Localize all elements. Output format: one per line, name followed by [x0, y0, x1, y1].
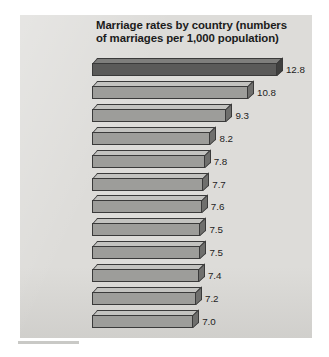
bar-front-face [92, 246, 200, 259]
bar [92, 127, 210, 144]
bar-side-face [277, 58, 283, 76]
value-label: 7.5 [209, 224, 222, 235]
value-label: 7.5 [209, 247, 222, 258]
bar-front-face [92, 109, 226, 122]
bar [92, 150, 205, 167]
bar-side-face [202, 195, 208, 213]
bar [92, 218, 200, 235]
bar-front-face [92, 86, 248, 99]
marriage-rates-bar-chart: Marriage rates by country (numbers of ma… [0, 0, 329, 357]
bar-side-face [199, 264, 205, 282]
bar [92, 264, 199, 281]
value-label: 7.2 [205, 293, 218, 304]
value-label: 7.6 [211, 201, 224, 212]
bar-front-face [92, 155, 205, 168]
bar [92, 104, 226, 121]
bar-front-face [92, 63, 277, 76]
value-label: 7.7 [212, 179, 225, 190]
bar-side-face [193, 309, 199, 327]
bar-side-face [200, 241, 206, 259]
bar-front-face [92, 132, 210, 145]
value-label: 10.8 [257, 87, 276, 98]
bar-front-face [92, 269, 199, 282]
bar-front-face [92, 292, 196, 305]
value-label: 7.8 [214, 156, 227, 167]
value-label: 12.8 [286, 64, 305, 75]
bar [92, 195, 202, 212]
bar-front-face [92, 315, 193, 328]
caption-rule [18, 341, 79, 344]
bar-front-face [92, 178, 203, 191]
bar-side-face [200, 218, 206, 236]
bar [92, 310, 193, 327]
bar-front-face [92, 200, 202, 213]
bar-front-face [92, 223, 200, 236]
bar [92, 173, 203, 190]
bar [92, 58, 277, 75]
value-label: 7.4 [208, 270, 221, 281]
value-label: 9.3 [235, 110, 248, 121]
value-label: 7.0 [202, 316, 215, 327]
bar [92, 241, 200, 258]
bar-side-face [196, 287, 202, 305]
value-label: 8.2 [219, 133, 232, 144]
bar-side-face [226, 103, 232, 121]
bar [92, 81, 248, 98]
bar-side-face [210, 126, 216, 144]
plot-area: United States12.8Denmark10.8Japan9.3Neth… [20, 15, 312, 338]
bar [92, 287, 196, 304]
